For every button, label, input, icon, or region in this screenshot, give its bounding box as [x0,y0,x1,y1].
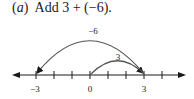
right-arrow-icon [178,72,186,78]
arc-minus-6 [37,41,144,74]
tick-label-0: 0 [88,84,93,94]
arc-label-minus-6: −6 [88,26,98,36]
left-arrow-icon [12,72,20,78]
tick-label-3: 3 [142,84,147,94]
arc-plus-3 [91,61,143,74]
number-line-diagram [0,0,194,99]
arc-label-3: 3 [116,52,121,62]
tick-label-minus-3: −3 [30,84,40,94]
